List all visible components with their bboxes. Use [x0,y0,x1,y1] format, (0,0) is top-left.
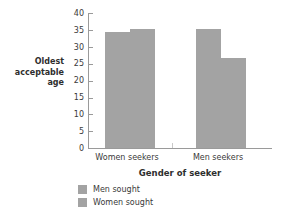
x-tick-label-men-seekers: Men seekers [180,153,256,162]
legend-label-men-sought: Men sought [93,185,140,194]
bar-women-seekers-men-sought [105,32,130,148]
y-tick-label-40: 40 [66,10,84,18]
bar-men-seekers-women-sought [221,58,246,148]
bar-men-seekers-men-sought [196,29,221,148]
y-tick-label-15: 15 [66,94,84,102]
y-tick-label-25: 25 [66,60,84,68]
legend-label-women-sought: Women sought [93,198,153,207]
x-tick-label-women-seekers: Women seekers [89,153,165,162]
legend-swatch-women-sought [78,198,87,207]
legend-item-women-sought: Women sought [78,196,153,209]
plot-area [89,13,272,148]
y-axis-title-line-2: acceptable [2,68,64,79]
x-axis-line [88,148,272,149]
x-axis-title: Gender of seeker [88,168,272,178]
y-axis-title-line-1: Oldest [2,57,64,68]
y-tick-label-10: 10 [66,111,84,119]
bar-chart-figure: Oldest acceptable age 40 35 30 25 20 15 … [0,0,285,217]
y-axis-title: Oldest acceptable age [2,57,64,89]
y-tick-label-5: 5 [66,128,84,136]
chart-legend: Men sought Women sought [78,183,153,209]
y-tick-label-35: 35 [66,27,84,35]
chart-title [60,0,245,1]
bar-women-seekers-women-sought [130,29,155,148]
legend-item-men-sought: Men sought [78,183,153,196]
y-tick-label-20: 20 [66,77,84,85]
y-axis-title-line-3: age [2,78,64,89]
legend-swatch-men-sought [78,185,87,194]
y-tick-label-30: 30 [66,44,84,52]
y-tick-label-0: 0 [66,145,84,153]
